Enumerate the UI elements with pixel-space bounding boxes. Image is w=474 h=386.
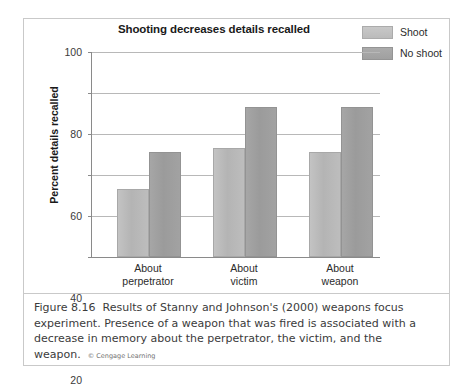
bars-layer <box>92 52 380 257</box>
bar-group-1 <box>117 52 181 257</box>
bar-shoot-1 <box>117 189 149 257</box>
chart-title: Shooting decreases details recalled <box>64 23 364 35</box>
figure-card: Shooting decreases details recalled Shoo… <box>23 18 450 366</box>
caption-figure-number: Figure 8.16 <box>34 301 96 314</box>
chart-panel: Shooting decreases details recalled Shoo… <box>24 19 449 292</box>
bar-no-shoot-1 <box>149 152 181 257</box>
legend-label-no-shoot: No shoot <box>400 47 442 59</box>
x-category-label-line: perpetrator <box>100 275 196 288</box>
y-tick-label-100: 100 <box>64 46 82 58</box>
x-category-label-line: About <box>100 262 196 275</box>
bar-shoot-2 <box>213 148 245 257</box>
y-tick-label-80: 80 <box>70 128 82 140</box>
x-category-label-3: Aboutweapon <box>292 262 388 288</box>
x-category-label-1: Aboutperpetrator <box>100 262 196 288</box>
bar-group-3 <box>309 52 373 257</box>
y-tick-label-60: 60 <box>70 210 82 222</box>
bar-no-shoot-3 <box>341 107 373 257</box>
x-category-label-2: Aboutvictim <box>196 262 292 288</box>
legend-label-shoot: Shoot <box>400 26 427 38</box>
bar-no-shoot-2 <box>245 107 277 257</box>
bar-shoot-3 <box>309 152 341 257</box>
legend-swatch-shoot <box>362 26 393 39</box>
y-axis-title: Percent details recalled <box>48 65 60 225</box>
x-category-label-line: About <box>196 262 292 275</box>
plot-area: 020406080100 <box>91 52 380 258</box>
bar-group-2 <box>213 52 277 257</box>
y-tick-label-20: 20 <box>70 374 82 386</box>
caption-copyright: © Cengage Learning <box>88 352 156 360</box>
x-category-label-line: weapon <box>292 275 388 288</box>
tick-mark-0: 0 <box>88 257 92 258</box>
legend-item-shoot: Shoot <box>362 23 452 41</box>
figure-caption: Figure 8.16 Results of Stanny and Johnso… <box>34 300 438 364</box>
x-category-label-line: About <box>292 262 388 275</box>
x-category-label-line: victim <box>196 275 292 288</box>
caption-divider <box>24 293 449 294</box>
